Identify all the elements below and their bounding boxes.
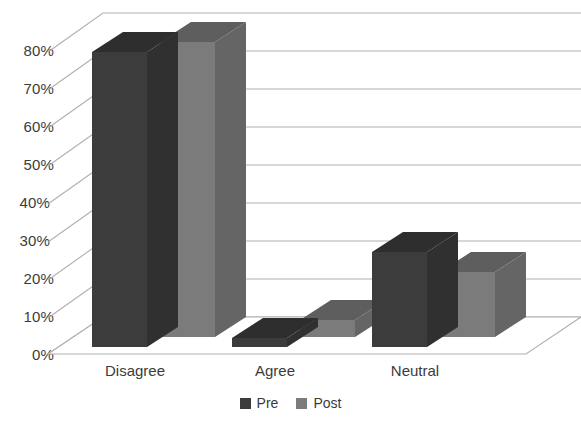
- legend-swatch-post: [296, 398, 307, 409]
- bar-disagree-pre: [92, 32, 178, 347]
- bar-neutral-pre: [372, 232, 458, 347]
- chart-legend: Pre Post: [0, 396, 581, 410]
- legend-item-pre: Pre: [240, 396, 279, 410]
- legend-item-post: Post: [296, 396, 341, 410]
- x-axis-label-disagree: Disagree: [65, 363, 205, 379]
- bar-chart: 80% 70% 60% 50% 40% 30% 20% 10% 0%: [0, 0, 581, 426]
- legend-swatch-pre: [240, 398, 251, 409]
- legend-label-pre: Pre: [257, 396, 279, 410]
- legend-label-post: Post: [313, 396, 341, 410]
- x-axis-label-neutral: Neutral: [345, 363, 485, 379]
- x-axis-label-agree: Agree: [205, 363, 345, 379]
